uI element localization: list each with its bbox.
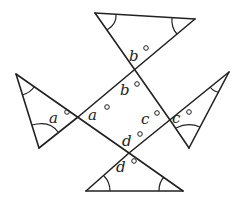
angle-arc-bottom-right [159,177,164,191]
top-triangle [78,13,195,120]
degree-b-bottom [135,82,140,87]
angle-arc-left-top [22,87,34,95]
label-c-right: c [172,109,181,127]
label-a-right: a [88,106,97,124]
angle-arc-top-right [172,17,177,34]
left-triangle [16,74,129,153]
label-d-top: d [122,132,132,150]
degree-a-right [105,105,110,110]
degree-b-top [144,46,149,51]
label-b-bottom: b [120,81,130,99]
angle-arc-top-left [107,14,116,30]
angle-diagram: b b a a c c d d [0,0,247,211]
label-d-bottom: d [116,158,126,176]
label-a-left: a [49,109,58,127]
angle-arc-right-top [210,87,219,92]
label-c-left: c [141,110,150,128]
degree-d-top [138,132,143,137]
degree-c-left [155,111,160,116]
degree-c-right [187,110,192,115]
degree-d-bottom [132,159,137,164]
label-b-top: b [129,47,139,65]
angle-arc-bottom-left [104,176,110,191]
